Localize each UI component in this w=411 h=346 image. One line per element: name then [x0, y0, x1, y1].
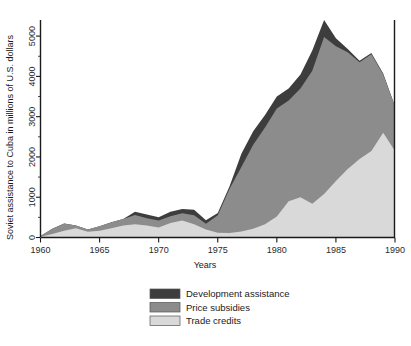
x-tick-label: 1980 — [267, 245, 287, 255]
y-tick-label: 5000 — [27, 26, 37, 46]
legend-label: Price subsidies — [186, 302, 250, 313]
x-tick-label: 1960 — [30, 245, 50, 255]
legend-swatch — [150, 289, 180, 299]
y-tick-label: 0 — [27, 235, 37, 240]
x-tick-label: 1990 — [385, 245, 405, 255]
legend-label: Trade credits — [186, 315, 241, 326]
x-tick-label: 1965 — [90, 245, 110, 255]
y-tick-label: 4000 — [27, 66, 37, 86]
stacked-area-chart: Soviet assistance to Cuba in millions of… — [0, 0, 411, 346]
x-tick-label: 1975 — [208, 245, 228, 255]
x-tick-label: 1985 — [326, 245, 346, 255]
y-tick-label: 2000 — [27, 147, 37, 167]
x-axis-title: Years — [194, 260, 217, 270]
legend-swatch — [150, 316, 180, 326]
legend-swatch — [150, 303, 180, 313]
y-axis-title: Soviet assistance to Cuba in millions of… — [5, 34, 15, 240]
legend-label: Development assistance — [186, 288, 290, 299]
x-tick-label: 1970 — [149, 245, 169, 255]
y-tick-label: 3000 — [27, 107, 37, 127]
y-tick-label: 1000 — [27, 187, 37, 207]
chart-container: Soviet assistance to Cuba in millions of… — [0, 0, 411, 346]
